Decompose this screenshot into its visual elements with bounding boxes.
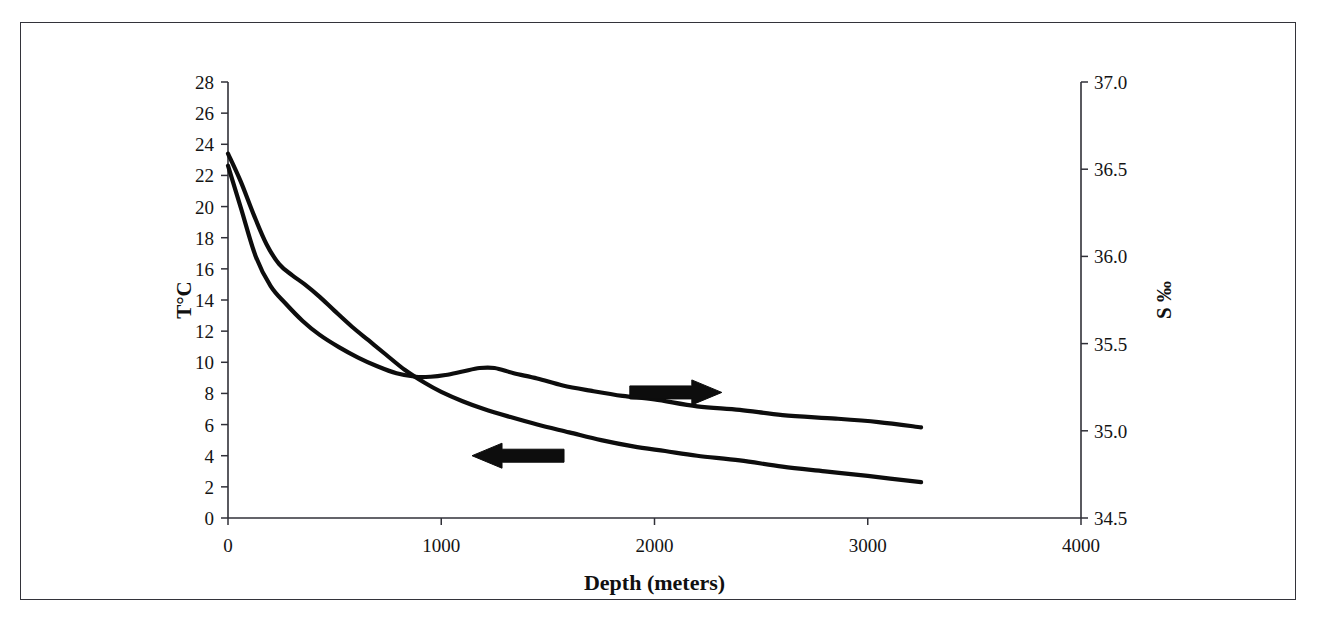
y-axis-right-tick-label: 35.5 <box>1094 334 1127 353</box>
x-axis-tick-label: 1000 <box>422 536 460 555</box>
x-axis-tick-label: 0 <box>223 536 233 555</box>
y-axis-left-tick-label: 0 <box>170 509 214 528</box>
y-axis-left-tick-label: 22 <box>170 166 214 185</box>
y-axis-right-title: S ‰ <box>1152 281 1177 319</box>
y-axis-left-tick-label: 4 <box>170 446 214 465</box>
figure-container: 024681012141618202224262834.535.035.536.… <box>0 0 1325 624</box>
y-axis-right-tick-label: 35.0 <box>1094 421 1127 440</box>
series-line-salinity <box>228 166 921 428</box>
y-axis-left-tick-label: 24 <box>170 135 214 154</box>
tick-marks <box>221 82 1088 525</box>
y-axis-left-tick-label: 12 <box>170 322 214 341</box>
y-axis-right-tick-label: 37.0 <box>1094 73 1127 92</box>
y-axis-right-tick-label: 36.5 <box>1094 160 1127 179</box>
temperature-arrow-icon <box>472 443 564 468</box>
plot-canvas <box>0 0 1325 624</box>
x-axis-title: Depth (meters) <box>584 570 725 596</box>
axis-lines <box>228 82 1081 518</box>
y-axis-left-tick-label: 26 <box>170 104 214 123</box>
y-axis-left-tick-label: 8 <box>170 384 214 403</box>
y-axis-left-tick-label: 6 <box>170 415 214 434</box>
y-axis-left-tick-label: 18 <box>170 228 214 247</box>
y-axis-left-tick-label: 20 <box>170 197 214 216</box>
y-axis-left-title: T°C <box>172 281 197 319</box>
y-axis-left-tick-label: 28 <box>170 73 214 92</box>
y-axis-left-tick-label: 16 <box>170 259 214 278</box>
x-axis-tick-label: 3000 <box>849 536 887 555</box>
y-axis-right-tick-label: 34.5 <box>1094 509 1127 528</box>
y-axis-left-tick-label: 2 <box>170 477 214 496</box>
y-axis-right-tick-label: 36.0 <box>1094 247 1127 266</box>
series-line-temperature <box>228 154 921 483</box>
data-series <box>228 154 921 483</box>
x-axis-tick-label: 2000 <box>636 536 674 555</box>
y-axis-left-tick-label: 10 <box>170 353 214 372</box>
x-axis-tick-label: 4000 <box>1062 536 1100 555</box>
